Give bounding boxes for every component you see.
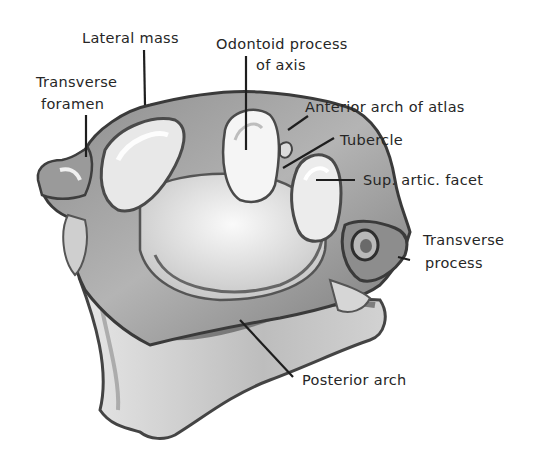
label-transverse-process-line1: Transverse [423, 230, 504, 250]
right-transverse-process-shape [342, 221, 407, 281]
label-anterior-arch-of-atlas: Anterior arch of atlas [305, 97, 465, 117]
label-odontoid-process-line1: Odontoid process [216, 34, 340, 54]
label-transverse-foramen-line1: Transverse [36, 72, 117, 92]
label-odontoid-process-line2: of axis [256, 55, 306, 75]
tubercle-shape [280, 142, 292, 157]
label-transverse-foramen-line2: foramen [41, 94, 104, 114]
label-tubercle: Tubercle [340, 130, 403, 150]
label-transverse-process-line2: process [425, 253, 483, 273]
leader-lateral-mass [144, 50, 145, 105]
label-lateral-mass: Lateral mass [82, 28, 179, 48]
left-transverse-foramen-shape [38, 148, 92, 199]
label-posterior-arch: Posterior arch [302, 370, 407, 390]
odontoid-process-shape [223, 110, 279, 202]
label-sup-artic-facet: Sup. artic. facet [363, 170, 483, 190]
right-articular-facet-shape [292, 155, 341, 241]
